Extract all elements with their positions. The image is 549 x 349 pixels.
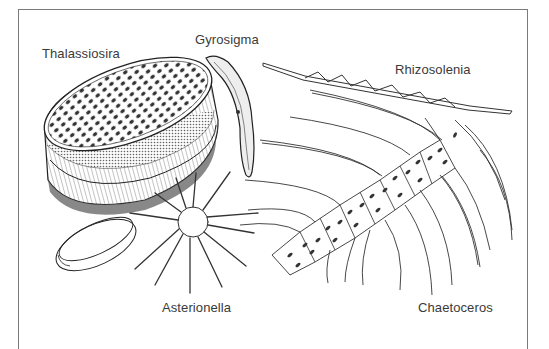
rhizosolenia-drawing bbox=[263, 63, 512, 114]
label-chaetoceros: Chaetoceros bbox=[418, 300, 493, 315]
valve-disc-drawing bbox=[49, 209, 144, 282]
label-asterionella: Asterionella bbox=[162, 300, 231, 315]
label-rhizosolenia: Rhizosolenia bbox=[395, 62, 471, 77]
chaetoceros-drawing bbox=[240, 90, 512, 295]
label-gyrosigma: Gyrosigma bbox=[195, 32, 259, 47]
label-thalassiosira: Thalassiosira bbox=[42, 46, 120, 61]
